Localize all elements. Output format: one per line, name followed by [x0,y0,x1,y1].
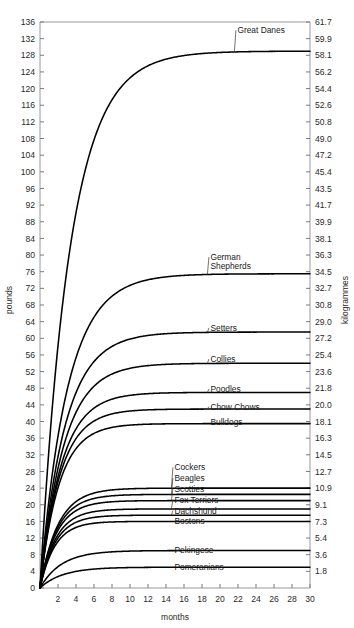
y-tick-right-label: 27.2 [315,333,332,343]
label-poodles: Poodles [210,384,240,394]
x-tick-label: 4 [74,594,79,604]
y-tick-right-label: 52.6 [315,100,332,110]
y-tick-left-label: 52 [25,367,35,377]
y-tick-left-label: 12 [25,533,35,543]
x-tick-label: 10 [125,594,135,604]
label-german-shepherds: Shepherds [210,261,251,271]
x-tick-label: 20 [215,594,225,604]
y-tick-left-label: 132 [21,34,36,44]
y-tick-right-label: 58.1 [315,50,332,60]
y-tick-left-label: 56 [25,350,35,360]
y-tick-right-label: 38.1 [315,234,332,244]
y-tick-left-label: 128 [21,50,36,60]
y-tick-left-label: 136 [21,17,36,27]
label-cockers: Cockers [174,462,205,472]
x-tick-label: 22 [233,594,243,604]
y-tick-left-label: 88 [25,217,35,227]
y-tick-left-label: 60 [25,333,35,343]
y-tick-left-label: 64 [25,317,35,327]
y-tick-left-label: 112 [21,117,35,127]
y-tick-right-label: 50.8 [315,117,332,127]
y-tick-left-label: 40 [25,417,35,427]
y-tick-left-label: 104 [21,150,36,160]
label-setters: Setters [210,323,237,333]
y-tick-right-label: 21.8 [315,383,332,393]
label-great-danes: Great Danes [237,25,284,35]
y-tick-left-label: 96 [25,184,35,194]
label-dachshund: Dachshund [174,506,217,516]
y-tick-right-label: 47.2 [315,150,332,160]
y-tick-left-label: 116 [21,100,35,110]
label-chow-chows: Chow Chows [210,402,259,412]
y-tick-left-label: 16 [25,517,35,527]
y-tick-right-label: 49.0 [315,134,332,144]
y-tick-left-label: 84 [25,234,35,244]
y-tick-right-label: 43.5 [315,184,332,194]
y-tick-left-label: 36 [25,433,35,443]
y-tick-left-label: 80 [25,250,35,260]
y-tick-left-label: 72 [25,283,35,293]
y-tick-right-label: 59.9 [315,34,332,44]
label-pomeranians: Pomeranians [174,562,223,572]
y-tick-left-label: 24 [25,483,35,493]
label-beagles: Beagles [174,473,204,483]
x-tick-label: 16 [179,594,189,604]
y-tick-left-label: 124 [21,67,36,77]
label-bostons: Bostons [174,516,204,526]
y-tick-left-label: 48 [25,383,35,393]
y-tick-right-label: 1.8 [315,566,327,576]
x-tick-label: 6 [92,594,97,604]
y-tick-right-label: 34.5 [315,267,332,277]
y-tick-right-label: 45.4 [315,167,332,177]
y-tick-left-label: 44 [25,400,35,410]
x-tick-label: 24 [251,594,261,604]
x-tick-label: 26 [269,594,279,604]
chart-canvas: 0481216202428323640444852566064687276808… [0,0,354,628]
y-tick-left-label: 32 [25,450,35,460]
x-tick-label: 18 [197,594,207,604]
y-tick-right-label: 23.6 [315,367,332,377]
x-tick-label: 2 [56,594,61,604]
y-tick-left-label: 76 [25,267,35,277]
y-tick-left-label: 100 [21,167,36,177]
y-tick-right-label: 54.4 [315,84,332,94]
y-tick-right-label: 61.7 [315,17,332,27]
y-tick-left-label: 92 [25,200,35,210]
y-tick-left-label: 0 [30,583,35,593]
x-tick-label: 8 [110,594,115,604]
y-axis-left-title: pounds [4,286,14,314]
label-bulldogs: Bulldogs [210,417,242,427]
y-tick-right-label: 16.3 [315,433,332,443]
chart-background [0,0,354,628]
label-fox-terriers: Fox Terriers [174,495,218,505]
x-tick-label: 30 [305,594,315,604]
y-tick-right-label: 5.4 [315,533,327,543]
y-tick-left-label: 4 [30,566,35,576]
label-scotties: Scotties [174,484,204,494]
y-tick-right-label: 18.1 [315,417,332,427]
x-axis-title: months [161,612,189,622]
y-tick-right-label: 36.3 [315,250,332,260]
y-tick-right-label: 30.8 [315,300,332,310]
x-tick-label: 28 [287,594,297,604]
y-tick-right-label: 10.9 [315,483,332,493]
y-tick-left-label: 68 [25,300,35,310]
y-tick-right-label: 41.7 [315,200,332,210]
x-tick-label: 12 [143,594,153,604]
y-tick-right-label: 32.7 [315,283,332,293]
y-tick-right-label: 29.0 [315,317,332,327]
y-tick-right-label: 39.9 [315,217,332,227]
label-pekingese: Pekingese [174,545,213,555]
y-tick-right-label: 14.5 [315,450,332,460]
y-tick-left-label: 108 [21,134,36,144]
y-tick-right-label: 20.0 [315,400,332,410]
y-tick-right-label: 9.1 [315,500,327,510]
y-tick-left-label: 120 [21,84,36,94]
y-tick-right-label: 7.3 [315,517,327,527]
label-collies: Collies [210,354,235,364]
y-tick-left-label: 28 [25,467,35,477]
x-tick-label: 14 [161,594,171,604]
y-tick-right-label: 3.6 [315,550,327,560]
y-tick-right-label: 12.7 [315,467,332,477]
y-tick-right-label: 25.4 [315,350,332,360]
